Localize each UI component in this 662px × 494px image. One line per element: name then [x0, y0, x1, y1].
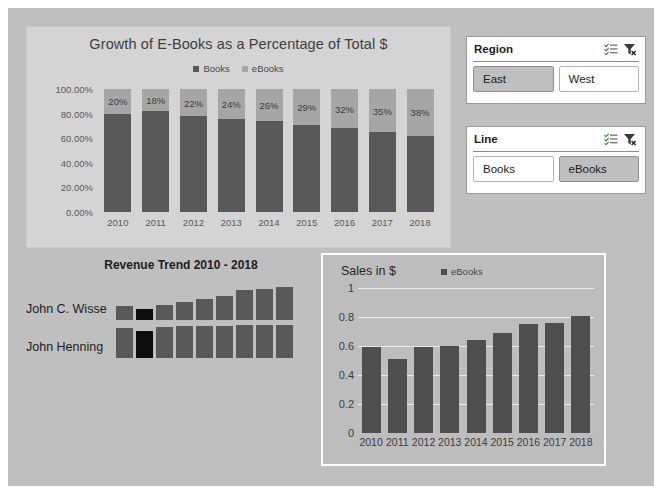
sales-chart-plot — [358, 288, 594, 433]
growth-stacked-bar: 35% — [369, 89, 396, 212]
sparkline-bar — [136, 309, 153, 320]
slicer-region-header: Region — [467, 37, 645, 61]
growth-segment-books — [407, 136, 434, 212]
sales-x-tick: 2012 — [411, 436, 437, 448]
clear-filter-icon[interactable] — [622, 132, 638, 146]
legend-label-books: Books — [203, 63, 229, 74]
sales-bar — [493, 333, 512, 433]
sales-chart-legend: eBooks — [441, 266, 483, 277]
sparkline-bar — [196, 326, 213, 358]
sales-chart-title: Sales in $ — [341, 264, 396, 278]
sales-chart-panel[interactable]: Sales in $ eBooks 10.80.60.40.20 2010201… — [321, 253, 606, 466]
growth-y-tick: 0.00% — [66, 207, 93, 218]
growth-y-tick: 20.00% — [61, 182, 93, 193]
slicer-region-item-west[interactable]: West — [559, 66, 640, 92]
slicer-line-items: Books eBooks — [473, 156, 639, 182]
sales-bar — [362, 347, 381, 433]
growth-stacked-bar: 26% — [256, 89, 283, 212]
revenue-trend-row[interactable]: John Henning — [26, 320, 316, 358]
clear-filter-icon[interactable] — [622, 42, 638, 56]
growth-chart-y-axis: 100.00%80.00%60.00%40.00%20.00%0.00% — [35, 83, 95, 218]
slicer-region[interactable]: Region East West — [466, 36, 646, 104]
growth-segment-books — [293, 125, 320, 212]
sales-y-tick: 0 — [348, 427, 354, 439]
growth-x-tick: 2017 — [365, 217, 399, 228]
sales-y-tick: 0.4 — [339, 369, 354, 381]
legend-item-ebooks: eBooks — [242, 63, 284, 74]
growth-stacked-bar: 38% — [407, 89, 434, 212]
sparkline-bar — [136, 331, 153, 358]
slicer-line-item-ebooks[interactable]: eBooks — [559, 156, 640, 182]
growth-chart-panel[interactable]: Growth of E-Books as a Percentage of Tot… — [26, 26, 451, 248]
growth-stacked-bar: 20% — [104, 89, 131, 212]
sparkline-bar — [256, 325, 273, 358]
growth-segment-ebooks: 18% — [142, 89, 169, 111]
growth-chart-x-axis: 201020112012201320142015201620172018 — [99, 217, 439, 235]
growth-segment-books — [369, 132, 396, 212]
sales-bar — [388, 359, 407, 433]
sales-y-tick: 0.8 — [339, 311, 354, 323]
slicer-line[interactable]: Line Books eBooks — [466, 126, 646, 194]
revenue-trend-row-label: John C. Wisse — [26, 302, 116, 320]
multi-select-icon[interactable] — [603, 132, 619, 146]
sales-x-tick: 2016 — [515, 436, 541, 448]
sparkline-john-henning[interactable] — [116, 320, 296, 358]
sales-x-tick: 2011 — [384, 436, 410, 448]
growth-x-tick: 2010 — [101, 217, 135, 228]
slicer-line-item-books[interactable]: Books — [473, 156, 554, 182]
growth-data-label: 35% — [369, 105, 396, 116]
growth-x-tick: 2014 — [252, 217, 286, 228]
legend-label-ebooks: eBooks — [252, 63, 284, 74]
growth-stacked-bar: 32% — [331, 89, 358, 212]
growth-segment-ebooks: 38% — [407, 89, 434, 136]
growth-stacked-bar: 18% — [142, 89, 169, 212]
growth-x-tick: 2015 — [290, 217, 324, 228]
legend-label-ebooks: eBooks — [451, 266, 483, 277]
sparkline-bar — [156, 305, 173, 320]
sparkline-bar — [196, 299, 213, 320]
revenue-trend-row[interactable]: John C. Wisse — [26, 282, 316, 320]
growth-data-label: 22% — [180, 97, 207, 108]
sparkline-bar — [276, 325, 293, 358]
dashboard-canvas: Growth of E-Books as a Percentage of Tot… — [8, 8, 654, 486]
revenue-trend-row-label: John Henning — [26, 340, 116, 358]
growth-stacked-bar: 29% — [293, 89, 320, 212]
growth-data-label: 38% — [407, 107, 434, 118]
slicer-region-item-east[interactable]: East — [473, 66, 554, 92]
growth-chart-plot: 20%18%22%24%26%29%32%35%38% — [99, 89, 439, 212]
slicer-region-title: Region — [474, 43, 600, 55]
growth-y-tick: 40.00% — [61, 157, 93, 168]
growth-data-label: 29% — [293, 101, 320, 112]
growth-data-label: 18% — [142, 95, 169, 106]
growth-x-tick: 2018 — [403, 217, 437, 228]
growth-segment-ebooks: 35% — [369, 89, 396, 132]
sales-gridline — [358, 288, 594, 289]
slicer-region-items: East West — [473, 66, 639, 92]
growth-segment-books — [256, 121, 283, 212]
sales-bar — [467, 340, 486, 433]
slicer-line-divider — [473, 151, 639, 152]
revenue-trend-panel: Revenue Trend 2010 - 2018 John C. Wisse … — [26, 258, 316, 358]
growth-x-tick: 2011 — [139, 217, 173, 228]
sales-chart-y-axis: 10.80.60.40.20 — [323, 288, 354, 433]
sales-y-tick: 0.6 — [339, 340, 354, 352]
growth-segment-books — [180, 116, 207, 212]
legend-swatch-books — [193, 66, 199, 72]
growth-segment-books — [104, 114, 131, 212]
sparkline-bar — [276, 287, 293, 320]
sparkline-bar — [236, 325, 253, 358]
growth-y-tick: 80.00% — [61, 108, 93, 119]
sales-x-tick: 2013 — [437, 436, 463, 448]
growth-stacked-bar: 24% — [218, 89, 245, 212]
sparkline-john-c-wisse[interactable] — [116, 282, 296, 320]
legend-swatch-ebooks — [242, 66, 248, 72]
growth-y-tick: 100.00% — [55, 84, 93, 95]
sales-x-tick: 2015 — [489, 436, 515, 448]
slicer-line-title: Line — [474, 133, 600, 145]
multi-select-icon[interactable] — [603, 42, 619, 56]
sparkline-bar — [116, 328, 133, 358]
revenue-trend-title: Revenue Trend 2010 - 2018 — [46, 258, 316, 272]
sales-x-tick: 2017 — [542, 436, 568, 448]
growth-segment-books — [142, 111, 169, 212]
sparkline-bar — [216, 296, 233, 320]
